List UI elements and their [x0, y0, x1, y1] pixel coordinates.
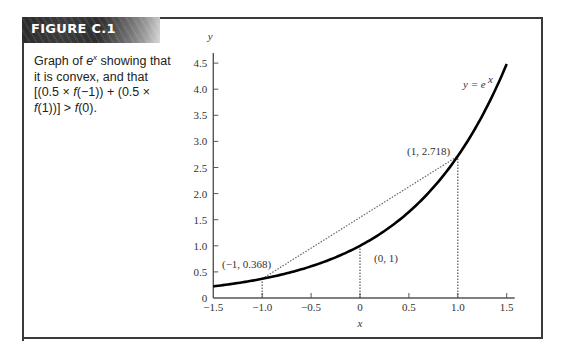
annotation-point-0: (0, 1): [374, 252, 398, 265]
y-axis-title: y: [207, 30, 213, 42]
x-tick-label: −1.5: [203, 301, 223, 313]
x-tick-label: 0.5: [402, 301, 416, 313]
y-tick-label: 1.5: [194, 214, 208, 226]
y-tick-label: 3.0: [194, 135, 208, 147]
y-tick-label: 2.0: [194, 188, 208, 200]
x-tick-label: −1.0: [252, 301, 272, 313]
figure-label: FIGURE C.1: [31, 21, 116, 36]
chart: 00.51.01.52.02.53.03.54.04.5−1.5−1.0−0.5…: [0, 0, 566, 356]
y-tick-label: 4.5: [194, 57, 208, 69]
annotation-point-minus1: (−1, 0.368): [222, 258, 272, 271]
y-tick-label: 3.5: [194, 109, 208, 121]
curve-label: y = e: [462, 78, 486, 90]
y-tick-label: 2.5: [194, 162, 208, 174]
curve-label-exponent: x: [487, 73, 493, 85]
chord-line: [262, 156, 458, 279]
annotation-point-1: (1, 2.718): [407, 145, 450, 158]
x-tick-label: 1.0: [451, 301, 465, 313]
y-tick-label: 0.5: [194, 266, 208, 278]
exp-curve: [213, 64, 506, 286]
x-tick-label: 1.5: [500, 301, 514, 313]
y-tick-label: 4.0: [194, 83, 208, 95]
x-axis-title: x: [357, 317, 363, 329]
x-tick-label: 0: [357, 301, 363, 313]
x-tick-label: −0.5: [301, 301, 321, 313]
y-tick-label: 1.0: [194, 240, 208, 252]
